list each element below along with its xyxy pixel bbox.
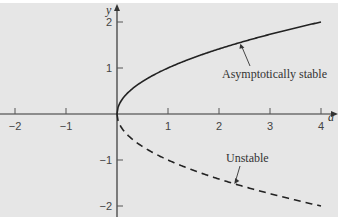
x-tick-label: 1 [165, 120, 171, 132]
x-tick-label: 2 [216, 120, 222, 132]
stable-label: Asymptotically stable [222, 67, 327, 81]
x-axis-label: a [328, 110, 334, 124]
y-axis-label: y [105, 3, 112, 17]
y-tick-label: −2 [99, 200, 112, 212]
x-tick-label: −1 [60, 120, 73, 132]
y-tick-label: 2 [106, 16, 112, 28]
x-tick-label: −2 [9, 120, 22, 132]
bifurcation-chart: −2−11234−2−112 a y Asymptotically stable… [0, 0, 338, 223]
unstable-label: Unstable [226, 151, 269, 165]
y-tick-label: −1 [99, 154, 112, 166]
x-tick-label: 4 [318, 120, 324, 132]
y-tick-label: 1 [106, 62, 112, 74]
plot-background [0, 3, 338, 217]
x-tick-label: 3 [267, 120, 273, 132]
